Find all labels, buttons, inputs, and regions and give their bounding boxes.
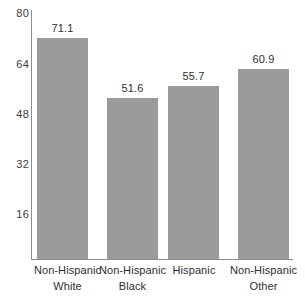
x-axis-category-labels: Non-Hispanic White Non-Hispanic Black Hi… bbox=[32, 262, 293, 305]
plot-area: 71.1 51.6 55.7 60.9 bbox=[32, 10, 293, 259]
x-label-non-hispanic-other: Non-Hispanic Other bbox=[214, 262, 305, 294]
y-tick-label-64: 64 bbox=[3, 59, 29, 70]
bar-slot-hispanic: 55.7 bbox=[168, 10, 219, 259]
y-tick-label-16: 16 bbox=[3, 209, 29, 220]
bar-hispanic[interactable] bbox=[168, 86, 219, 259]
y-tick-label-48: 48 bbox=[3, 109, 29, 120]
bar-slot-non-hispanic-white: 71.1 bbox=[37, 10, 88, 259]
bar-slot-non-hispanic-black: 51.6 bbox=[107, 10, 158, 259]
bar-slot-non-hispanic-other: 60.9 bbox=[238, 10, 289, 259]
bar-value-non-hispanic-black: 51.6 bbox=[93, 83, 172, 94]
y-tick-label-32: 32 bbox=[3, 159, 29, 170]
y-tick-label-80: 80 bbox=[3, 8, 29, 19]
bar-non-hispanic-other[interactable] bbox=[238, 69, 289, 259]
y-axis-tick-labels: 80 64 48 32 16 bbox=[0, 0, 29, 305]
bar-non-hispanic-white[interactable] bbox=[37, 38, 88, 259]
bar-non-hispanic-black[interactable] bbox=[107, 98, 158, 259]
x-axis-line bbox=[31, 259, 293, 260]
x-label-line2: Other bbox=[214, 278, 305, 294]
bar-value-non-hispanic-other: 60.9 bbox=[224, 54, 303, 65]
x-label-line1: Non-Hispanic bbox=[230, 264, 297, 276]
bar-value-non-hispanic-white: 71.1 bbox=[23, 23, 102, 34]
bar-chart: 80 64 48 32 16 71.1 51.6 55.7 60.9 Non-H… bbox=[0, 0, 305, 305]
x-label-line2: Black bbox=[83, 278, 182, 294]
bar-value-hispanic: 55.7 bbox=[154, 71, 233, 82]
x-label-line1: Hispanic bbox=[173, 264, 216, 276]
